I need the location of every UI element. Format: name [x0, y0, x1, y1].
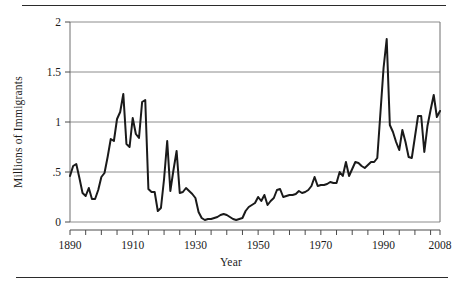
x-tick-label: 1890: [59, 239, 82, 251]
y-tick-label: 0: [55, 216, 61, 228]
bottom-horizontal-rule: [16, 277, 448, 278]
y-tick-label: 2: [55, 16, 61, 28]
x-tick-label: 2008: [429, 239, 452, 251]
x-axis-title: Year: [0, 256, 462, 268]
line-chart-svg: 0.511.521890191019301950197019902008: [0, 0, 462, 270]
x-tick-label: 1930: [184, 239, 207, 251]
x-tick-label: 1910: [121, 239, 144, 251]
y-tick-label: .5: [52, 166, 61, 178]
y-tick-label: 1: [55, 116, 61, 128]
x-tick-label: 1990: [372, 239, 395, 251]
x-tick-label: 1950: [247, 239, 270, 251]
x-tick-label: 1970: [309, 239, 332, 251]
y-tick-label: 1.5: [47, 66, 62, 78]
data-line-immigrants: [70, 39, 440, 220]
figure-container: 0.511.521890191019301950197019902008 Mil…: [0, 0, 462, 289]
y-axis-title: Millions of Immigrants: [12, 52, 24, 212]
plot-area-wrapper: 0.511.521890191019301950197019902008: [0, 0, 462, 270]
